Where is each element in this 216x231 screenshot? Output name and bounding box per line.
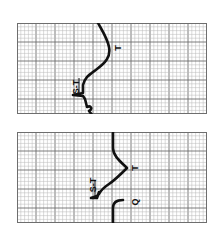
label-st-top: S-T [71,79,81,94]
grid-lines [17,23,207,114]
ecg-grid-top: S-T T [17,23,207,114]
ecg-strip-top: S-T T [17,23,207,114]
ecg-strip-bottom: S-T T Q [17,132,207,223]
label-t-top: T [113,45,123,51]
label-t-bottom: T [130,165,140,171]
ecg-grid-bottom: S-T T Q [17,132,207,223]
label-q-bottom: Q [130,198,140,205]
label-st-bottom: S-T [88,177,98,192]
